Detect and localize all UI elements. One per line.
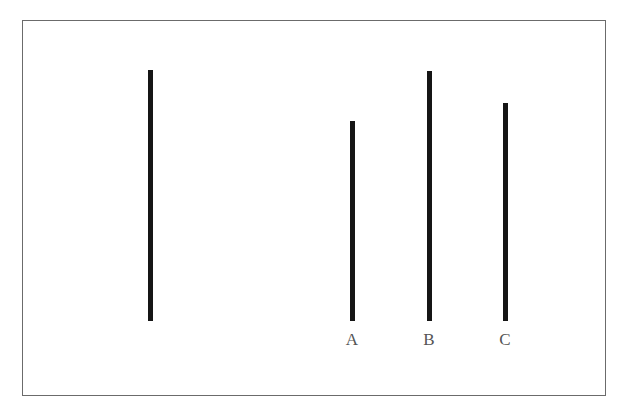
comparison-line-c [503, 103, 508, 321]
comparison-line-b [427, 71, 432, 321]
standard-line [148, 70, 153, 321]
label-a: A [337, 330, 367, 350]
label-b: B [414, 330, 444, 350]
label-c: C [490, 330, 520, 350]
comparison-line-a [350, 121, 355, 321]
